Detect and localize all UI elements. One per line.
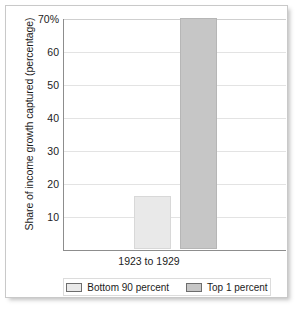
y-tick-label-70: 70%	[38, 13, 59, 25]
chart-legend: Bottom 90 percent Top 1 percent	[63, 278, 271, 296]
legend-item-bottom-90[interactable]: Bottom 90 percent	[66, 282, 169, 293]
y-tick-label-60: 60	[47, 46, 59, 58]
chart-card: Share of income growth captured (percent…	[5, 5, 288, 298]
legend-label-top-1: Top 1 percent	[207, 282, 268, 293]
bar-top-1-percent[interactable]	[180, 18, 217, 249]
legend-label-bottom-90: Bottom 90 percent	[87, 282, 169, 293]
y-tick-label-10: 10	[47, 211, 59, 223]
plot-area: 70%605040302010	[63, 19, 286, 251]
y-tick-label-20: 20	[47, 178, 59, 190]
gridline-20: 20	[64, 184, 286, 185]
y-tick-label-40: 40	[47, 112, 59, 124]
y-tick-label-30: 30	[47, 145, 59, 157]
y-tick-label-50: 50	[47, 79, 59, 91]
x-axis-category-label: 1923 to 1929	[63, 255, 235, 267]
legend-swatch-icon-bottom-90	[66, 283, 82, 292]
y-axis-title: Share of income growth captured (percent…	[23, 9, 35, 239]
gridline-40: 40	[64, 118, 286, 119]
gridline-50: 50	[64, 85, 286, 86]
legend-swatch-icon-top-1	[186, 283, 202, 292]
gridline-30: 30	[64, 151, 286, 152]
bar-bottom-90-percent[interactable]	[134, 196, 171, 249]
gridline-70: 70%	[64, 19, 286, 20]
gridline-10: 10	[64, 217, 286, 218]
gridline-60: 60	[64, 52, 286, 53]
legend-item-top-1[interactable]: Top 1 percent	[186, 282, 268, 293]
